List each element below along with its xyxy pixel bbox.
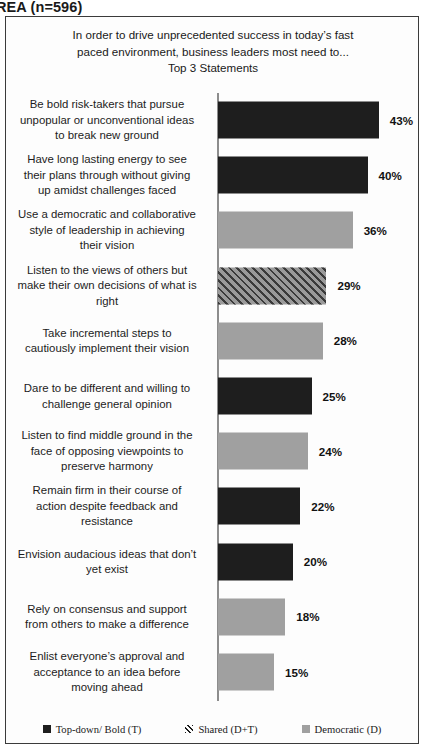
bar-track: 29% <box>218 267 418 304</box>
bar-category-label: Take incremental steps tocautiously impl… <box>12 325 202 356</box>
bar-category-label-line: Be bold risk-takers that pursue <box>12 97 202 113</box>
bar-row: Enlist everyone’s approval andacceptance… <box>6 645 418 699</box>
bar-value-label: 15% <box>285 666 308 679</box>
bar-row: Be bold risk-takers that pursueunpopular… <box>6 93 418 147</box>
bar-value-label: 18% <box>296 610 319 623</box>
bar-row: Listen to the views of others butmake th… <box>6 259 418 313</box>
bar-category-label-line: unpopular or unconventional ideas <box>12 112 202 128</box>
bar-democratic <box>218 212 353 249</box>
bar-row: Use a democratic and collaborativestyle … <box>6 203 418 257</box>
legend-label: Shared (D+T) <box>198 724 257 735</box>
bar-row: Dare to be different and willing tochall… <box>6 369 418 423</box>
bar-topdown <box>218 488 300 525</box>
bar-category-label-line: moving ahead <box>12 680 202 696</box>
bar-value-label: 24% <box>319 445 342 458</box>
bar-category-label: Be bold risk-takers that pursueunpopular… <box>12 97 202 144</box>
bar-category-label-line: make their own decisions of what is <box>12 278 202 294</box>
bar-category-label-line: up amidst challenges faced <box>12 183 202 199</box>
bar-category-label-line: Rely on consensus and support <box>12 601 202 617</box>
bar-democratic <box>218 654 274 691</box>
bar-category-label-line: Have long lasting energy to see <box>12 152 202 168</box>
bar-row: Remain firm in their course ofaction des… <box>6 479 418 533</box>
bar-democratic <box>218 598 285 635</box>
bar-category-label: Dare to be different and willing tochall… <box>12 381 202 412</box>
plot-area: Be bold risk-takers that pursueunpopular… <box>6 93 418 701</box>
bar-category-label: Rely on consensus and supportfrom others… <box>12 601 202 632</box>
chart-frame: In order to drive unprecedented success … <box>5 16 419 744</box>
bar-category-label-line: acceptance to an idea before <box>12 664 202 680</box>
legend-label: Top-down/ Bold (T) <box>56 724 142 735</box>
bar-category-label-line: from others to make a difference <box>12 617 202 633</box>
bar-category-label-line: action despite feedback and <box>12 499 202 515</box>
bar-shared <box>218 267 326 304</box>
bar-category-label-line: Envision audacious ideas that don’t <box>12 546 202 562</box>
bar-category-label-line: Dare to be different and willing to <box>12 381 202 397</box>
bar-track: 40% <box>218 157 418 194</box>
bar-category-label-line: yet exist <box>12 562 202 578</box>
legend-swatch-icon <box>43 725 51 733</box>
bar-category-label: Listen to the views of others butmake th… <box>12 262 202 309</box>
bar-category-label-line: Take incremental steps to <box>12 325 202 341</box>
bar-category-label-line: Use a democratic and collaborative <box>12 207 202 223</box>
bar-track: 36% <box>218 212 418 249</box>
bar-category-label-line: to break new ground <box>12 128 202 144</box>
chart-legend: Top-down/ Bold (T)Shared (D+T)Democratic… <box>6 717 418 741</box>
bar-topdown <box>218 102 379 139</box>
chart-title-line: Top 3 Statements <box>24 60 402 77</box>
bar-category-label-line: cautiously implement their vision <box>12 341 202 357</box>
bar-value-label: 20% <box>304 555 327 568</box>
bar-category-label: Listen to find middle ground in theface … <box>12 428 202 475</box>
bar-category-label: Use a democratic and collaborativestyle … <box>12 207 202 254</box>
bar-track: 43% <box>218 102 418 139</box>
bar-category-label-line: their vision <box>12 238 202 254</box>
bar-category-label-line: Listen to find middle ground in the <box>12 428 202 444</box>
bar-track: 20% <box>218 543 418 580</box>
bar-value-label: 25% <box>323 390 346 403</box>
bar-row: Listen to find middle ground in theface … <box>6 424 418 478</box>
bar-category-label: Have long lasting energy to seetheir pla… <box>12 152 202 199</box>
legend-item-shared: Shared (D+T) <box>185 724 257 735</box>
bar-track: 22% <box>218 488 418 525</box>
bar-category-label-line: face of opposing viewpoints to <box>12 443 202 459</box>
bar-category-label-line: Enlist everyone’s approval and <box>12 649 202 665</box>
bar-row: Have long lasting energy to seetheir pla… <box>6 148 418 202</box>
bar-category-label: Remain firm in their course ofaction des… <box>12 483 202 530</box>
bar-category-label-line: Listen to the views of others but <box>12 262 202 278</box>
legend-swatch-icon <box>185 725 193 733</box>
bar-value-label: 43% <box>390 114 413 127</box>
bar-category-label-line: style of leadership in achieving <box>12 223 202 239</box>
bar-value-label: 36% <box>364 224 387 237</box>
bar-track: 25% <box>218 378 418 415</box>
bar-track: 24% <box>218 433 418 470</box>
legend-swatch-icon <box>302 725 310 733</box>
legend-item-democratic: Democratic (D) <box>302 724 382 735</box>
bar-track: 15% <box>218 654 418 691</box>
bar-topdown <box>218 378 312 415</box>
bar-category-label-line: right <box>12 293 202 309</box>
page-header: REA (n=596) <box>0 0 425 16</box>
chart-title-line: In order to drive unprecedented success … <box>24 27 402 44</box>
bar-democratic <box>218 433 308 470</box>
bar-row: Rely on consensus and supportfrom others… <box>6 590 418 644</box>
bar-category-label-line: their plans through without giving <box>12 167 202 183</box>
chart-title: In order to drive unprecedented success … <box>24 27 402 77</box>
bar-category-label-line: resistance <box>12 514 202 530</box>
bar-topdown <box>218 543 293 580</box>
legend-item-topdown: Top-down/ Bold (T) <box>43 724 142 735</box>
bar-track: 28% <box>218 322 418 359</box>
bar-democratic <box>218 322 323 359</box>
legend-label: Democratic (D) <box>315 724 382 735</box>
bar-category-label-line: Remain firm in their course of <box>12 483 202 499</box>
bar-value-label: 28% <box>334 334 357 347</box>
bar-row: Envision audacious ideas that don’tyet e… <box>6 535 418 589</box>
bar-topdown <box>218 157 368 194</box>
bar-track: 18% <box>218 598 418 635</box>
bar-category-label-line: challenge general opinion <box>12 396 202 412</box>
bar-row: Take incremental steps tocautiously impl… <box>6 314 418 368</box>
bar-category-label: Envision audacious ideas that don’tyet e… <box>12 546 202 577</box>
bar-value-label: 40% <box>379 169 402 182</box>
bar-value-label: 29% <box>337 279 360 292</box>
chart-title-line: paced environment, business leaders most… <box>24 44 402 61</box>
bar-category-label: Enlist everyone’s approval andacceptance… <box>12 649 202 696</box>
bar-value-label: 22% <box>311 500 334 513</box>
